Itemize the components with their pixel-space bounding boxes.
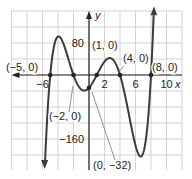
point-marker: [48, 73, 53, 78]
point-marker: [149, 73, 154, 78]
point-marker: [87, 86, 92, 91]
point-label: (0, −32): [93, 159, 131, 171]
y-tick-label: −160: [59, 133, 84, 145]
x-tick-label: 2: [101, 78, 107, 90]
point-label: (8, 0): [152, 61, 178, 73]
polynomial-graph: −6261080−160 (−5, 0)(−2, 0)(1, 0)(4, 0)(…: [0, 0, 192, 179]
y-axis-arrow-icon: [86, 11, 92, 19]
point-label: (1, 0): [92, 39, 118, 51]
point-label: (−5, 0): [6, 61, 38, 73]
x-tick-label: 6: [132, 78, 138, 90]
point-marker: [94, 73, 99, 78]
y-tick-label: 80: [72, 37, 84, 49]
grid-lines: [12, 11, 183, 170]
x-tick-label: −6: [36, 78, 49, 90]
x-tick-label: 10: [160, 78, 172, 90]
leader-line: [92, 92, 115, 160]
point-label: (−2, 0): [49, 110, 81, 122]
leader-line: [69, 86, 73, 112]
point-marker: [71, 73, 76, 78]
x-axis-label: x: [174, 78, 181, 90]
point-marker: [118, 73, 123, 78]
axes: [12, 11, 183, 170]
point-label: (4, 0): [123, 52, 149, 64]
